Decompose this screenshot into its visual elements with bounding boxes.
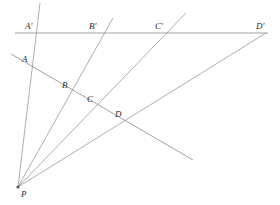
ray-pb — [18, 18, 113, 187]
diagram-canvas — [0, 0, 280, 205]
geometry-diagram: A' B' C' D' A B C D P — [0, 0, 280, 205]
label-p: P — [21, 190, 27, 199]
label-a-prime: A' — [25, 22, 32, 31]
ray-pc — [18, 13, 186, 187]
label-b-prime: B' — [89, 22, 96, 31]
label-a: A — [22, 55, 28, 64]
label-c: C — [87, 95, 93, 104]
line-a-b-c-d — [11, 54, 193, 160]
ray-pd — [18, 33, 266, 187]
label-c-prime: C' — [155, 22, 163, 31]
vertex-point-p — [16, 185, 19, 188]
label-d-prime: D' — [256, 22, 264, 31]
label-d: D — [115, 110, 122, 119]
label-b: B — [62, 81, 68, 90]
